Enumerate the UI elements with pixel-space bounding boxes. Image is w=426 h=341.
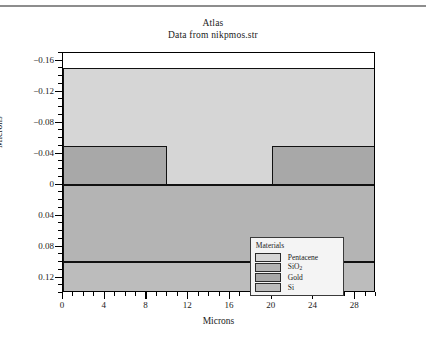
x-tick-major [62,292,63,299]
legend-box[interactable]: Materials PentaceneSiO2GoldSi [250,237,344,296]
y-tick-label: 0.08 [6,241,54,251]
x-tick-minor [93,292,94,296]
y-axis-title: Microns [0,116,4,148]
figure-canvas: Atlas Data from nikpmos.str Microns Micr… [0,0,426,341]
legend-label: Gold [288,273,303,282]
header-divider [0,5,426,7]
legend-label-subscript: 2 [299,265,302,271]
legend-label: Si [288,283,294,292]
y-tick-major [55,215,62,216]
legend-item[interactable]: SiO2 [255,262,339,272]
y-tick-major [55,184,62,185]
chart-title-block: Atlas Data from nikpmos.str [0,18,426,41]
y-tick-label: 0.12 [6,272,54,282]
x-tick-label: 8 [125,300,165,310]
x-tick-label: 12 [167,300,207,310]
x-tick-label: 28 [334,300,374,310]
chart-subtitle: Data from nikpmos.str [0,30,426,42]
legend-entries: PentaceneSiO2GoldSi [255,252,339,292]
legend-item[interactable]: Gold [255,272,339,282]
material-region-gold [63,146,167,185]
x-tick-minor [125,292,126,296]
x-tick-label: 4 [84,300,124,310]
y-tick-label: −0.16 [6,55,54,65]
legend-label: SiO2 [288,262,302,273]
x-tick-minor [135,292,136,296]
legend-swatch-gold [255,273,281,282]
y-tick-label: −0.04 [6,148,54,158]
y-tick-label: 0 [6,179,54,189]
x-tick-minor [83,292,84,296]
x-tick-minor [177,292,178,296]
x-tick-major [145,292,146,299]
legend-item[interactable]: Pentacene [255,252,339,262]
x-tick-minor [198,292,199,296]
y-tick-major [55,122,62,123]
x-tick-minor [219,292,220,296]
legend-swatch-pentacene [255,253,281,262]
x-tick-minor [72,292,73,296]
x-tick-label: 24 [292,300,332,310]
x-tick-minor [166,292,167,296]
x-tick-minor [344,292,345,296]
legend-item[interactable]: Si [255,282,339,292]
x-tick-minor [208,292,209,296]
x-tick-label: 0 [42,300,82,310]
legend-swatch-sio [255,263,281,272]
x-tick-major [229,292,230,299]
x-tick-major [187,292,188,299]
x-tick-minor [239,292,240,296]
x-tick-minor [114,292,115,296]
legend-label: Pentacene [288,253,318,262]
legend-swatch-si [255,283,281,292]
x-axis-title: Microns [62,316,375,326]
x-tick-label: 16 [209,300,249,310]
y-tick-label: −0.12 [6,86,54,96]
y-tick-label: −0.08 [6,117,54,127]
y-tick-major [55,277,62,278]
x-tick-minor [156,292,157,296]
y-tick-label: 0.04 [6,210,54,220]
x-tick-minor [375,292,376,296]
y-tick-major [55,60,62,61]
x-tick-major [354,292,355,299]
legend-title: Materials [256,241,339,250]
y-tick-major [55,153,62,154]
x-tick-minor [365,292,366,296]
y-tick-major [55,91,62,92]
y-tick-major [55,246,62,247]
chart-title: Atlas [0,18,426,30]
x-tick-label: 20 [251,300,291,310]
x-tick-major [104,292,105,299]
material-region-gold [272,146,375,185]
